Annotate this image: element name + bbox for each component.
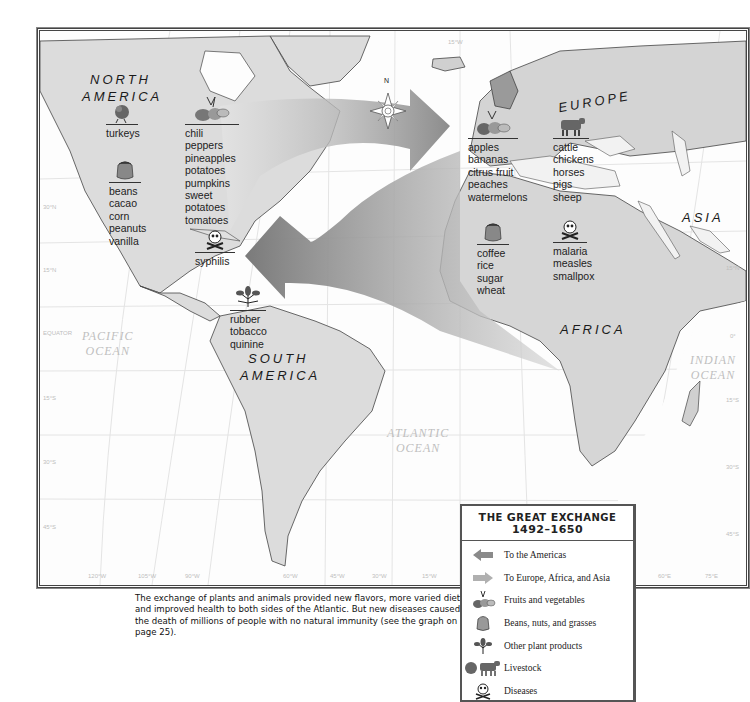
- legend-item-fruits: Fruits and vegetables: [462, 589, 633, 612]
- group-na-fruits: chili peppers pineapples potatoes pumpki…: [185, 93, 239, 226]
- lon-label: 15°W: [448, 39, 463, 45]
- item-label: potatoes: [185, 164, 239, 176]
- lat-label: 30°S: [43, 459, 56, 465]
- lon-label: 120°W: [88, 573, 106, 579]
- fruits-icon: [462, 590, 504, 610]
- item-label: wheat: [477, 284, 509, 296]
- item-label: pineapples: [185, 152, 239, 164]
- legend-item-livestock: Livestock: [462, 657, 633, 680]
- lon-label: 90°W: [185, 573, 200, 579]
- divider: [477, 244, 509, 245]
- map-frame: N NORTH AMERICA SOUTH AMERICA EUROPE AFR…: [37, 28, 749, 588]
- item-label: rice: [477, 259, 509, 271]
- legend-item-beans: Beans, nuts, and grasses: [462, 612, 633, 635]
- group-af-disease: malaria measles smallpox: [553, 217, 587, 282]
- fruits-icon: [468, 109, 518, 137]
- divider: [468, 138, 518, 139]
- map-caption: The exchange of plants and animals provi…: [135, 593, 475, 639]
- ocean-label-pacific: PACIFIC OCEAN: [82, 329, 133, 359]
- item-label: beans: [109, 185, 141, 197]
- lat-label: 30°S: [726, 464, 739, 470]
- arrow-right-icon: [462, 572, 504, 584]
- item-label: pumpkins: [185, 177, 239, 189]
- lon-label: 60°E: [658, 573, 671, 579]
- lon-label: 60°W: [283, 573, 298, 579]
- group-na-beans: beans cacao corn peanuts vanilla: [109, 157, 141, 247]
- lat-label: 45°S: [726, 531, 739, 537]
- group-eu-fruits: apples bananas citrus fruit peaches wate…: [468, 109, 518, 203]
- lon-label: 75°E: [705, 573, 718, 579]
- item-label: watermelons: [468, 191, 518, 203]
- sack-icon: [462, 614, 504, 632]
- map-base: [40, 31, 746, 585]
- item-label: turkeys: [106, 127, 138, 139]
- compass-north-label: N: [384, 77, 389, 84]
- skull-icon: [462, 682, 504, 700]
- turkey-icon: [106, 99, 138, 123]
- skull-icon: [553, 217, 587, 241]
- region-label-africa: AFRICA: [560, 321, 626, 338]
- map-legend: THE GREAT EXCHANGE 1492–1650 To the Amer…: [460, 504, 636, 702]
- ocean-label-atlantic: ATLANTIC OCEAN: [387, 426, 449, 456]
- legend-item-diseases: Diseases: [462, 680, 633, 702]
- item-label: cacao: [109, 197, 141, 209]
- livestock-icon: [462, 659, 504, 677]
- lat-label: 15°N: [726, 265, 739, 271]
- item-label: sheep: [553, 191, 589, 203]
- item-label: coffee: [477, 247, 509, 259]
- group-na-livestock: turkeys: [106, 99, 138, 139]
- lat-label: EQUATOR: [43, 330, 72, 336]
- lat-label: 0°: [730, 333, 736, 339]
- item-label: pigs: [553, 178, 589, 190]
- leaf-icon: [462, 637, 504, 655]
- lat-label: 45°S: [43, 524, 56, 530]
- sack-icon: [109, 157, 141, 181]
- fruits-icon: [185, 93, 239, 123]
- item-label: vanilla: [109, 235, 141, 247]
- divider: [230, 310, 266, 311]
- item-label: smallpox: [553, 270, 587, 282]
- group-eu-livestock: cattle chickens horses pigs sheep: [553, 113, 589, 203]
- item-label: cattle: [553, 141, 589, 153]
- lat-label: 30°N: [43, 204, 56, 210]
- region-label-asia: ASIA: [682, 209, 724, 226]
- divider: [106, 124, 138, 125]
- item-label: syphilis: [195, 255, 235, 267]
- divider: [109, 182, 141, 183]
- divider: [553, 138, 589, 139]
- lon-label: 30°W: [372, 573, 387, 579]
- cattle-icon: [553, 113, 589, 137]
- item-label: tobacco: [230, 325, 266, 337]
- ocean-label-indian: INDIAN OCEAN: [690, 353, 736, 383]
- divider: [195, 252, 235, 253]
- sack-icon: [477, 219, 509, 243]
- region-label-south-america: SOUTH AMERICA: [240, 350, 320, 384]
- arrow-left-icon: [462, 549, 504, 561]
- lat-label: 15°S: [43, 395, 56, 401]
- lon-label: 15°W: [422, 573, 437, 579]
- item-label: horses: [553, 166, 589, 178]
- item-label: chili peppers: [185, 127, 239, 152]
- group-sa-other: rubber tobacco quinine: [230, 285, 266, 350]
- item-label: quinine: [230, 338, 266, 350]
- item-label: apples: [468, 141, 518, 153]
- legend-title: THE GREAT EXCHANGE 1492–1650: [462, 506, 633, 541]
- group-af-beans: coffee rice sugar wheat: [477, 219, 509, 297]
- legend-date-range: 1492–1650: [462, 524, 633, 536]
- item-label: sugar: [477, 272, 509, 284]
- item-label: chickens: [553, 153, 589, 165]
- item-label: peanuts: [109, 222, 141, 234]
- divider: [185, 124, 239, 125]
- skull-icon: [195, 227, 235, 251]
- item-label: rubber: [230, 313, 266, 325]
- item-label: malaria: [553, 245, 587, 257]
- lon-label: 105°W: [138, 573, 156, 579]
- lat-label: 15°N: [43, 267, 56, 273]
- lon-label: 45°W: [330, 573, 345, 579]
- legend-item-other-plants: Other plant products: [462, 634, 633, 657]
- divider: [553, 242, 587, 243]
- item-label: sweet potatoes: [185, 189, 239, 214]
- item-label: citrus fruit: [468, 166, 518, 178]
- item-label: bananas: [468, 153, 518, 165]
- leaf-icon: [230, 285, 266, 309]
